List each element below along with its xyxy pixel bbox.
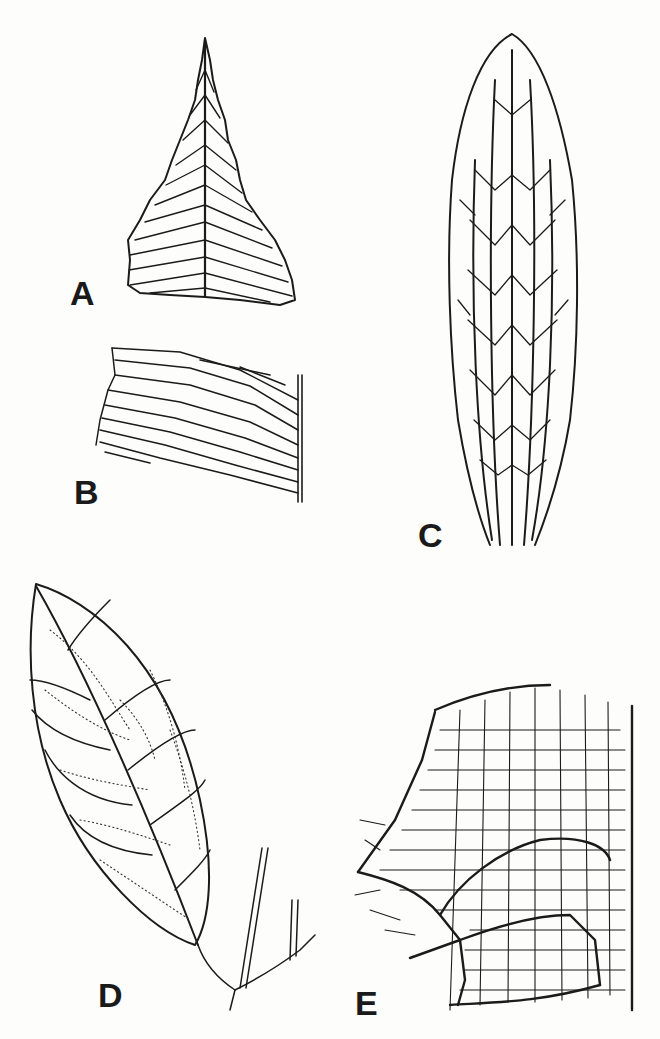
panel-b: B (0, 330, 330, 520)
panel-label-a: A (70, 276, 95, 310)
panel-label-d: D (98, 978, 123, 1012)
leaf-c-drawing (400, 20, 640, 560)
leaf-b-drawing (0, 330, 330, 520)
leaf-e-drawing (340, 640, 650, 1030)
panel-label-b: B (74, 475, 99, 509)
leaf-a-drawing (0, 0, 330, 320)
panel-label-c: C (418, 518, 443, 552)
leaf-d-drawing (0, 570, 340, 1030)
panel-d: D (0, 570, 340, 1030)
panel-a: A (0, 0, 330, 320)
panel-label-e: E (355, 986, 378, 1020)
panel-e: E (340, 640, 650, 1030)
panel-c: C (400, 20, 640, 560)
